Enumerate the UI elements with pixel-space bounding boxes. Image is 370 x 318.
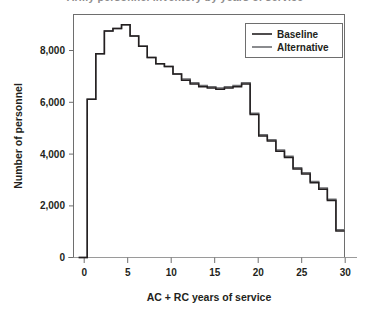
series-line-alternative	[79, 25, 345, 258]
y-tickmarks	[69, 51, 74, 258]
chart-legend: Baseline Alternative	[246, 24, 343, 58]
y-tick-label: 8,000	[40, 45, 65, 56]
x-tick-label: 15	[209, 267, 221, 278]
x-tickmarks	[84, 258, 345, 264]
x-tick-labels: 0 5 10 15 20 25 30	[81, 267, 351, 278]
y-axis-title: Number of personnel	[12, 83, 24, 189]
step-chart-plot: 8,000 6,000 4,000 2,000 0 0 5 10 15 20 2…	[0, 0, 370, 318]
chart-figure: Army personnel inventory by years of ser…	[0, 0, 370, 318]
x-axis-title: AC + RC years of service	[147, 291, 272, 303]
legend-label-alternative: Alternative	[277, 42, 329, 53]
y-tick-label: 4,000	[40, 149, 65, 160]
y-tick-label: 2,000	[40, 200, 65, 211]
x-tick-label: 25	[296, 267, 308, 278]
x-tick-label: 0	[81, 267, 87, 278]
y-tick-labels: 8,000 6,000 4,000 2,000 0	[40, 45, 65, 263]
y-tick-label: 6,000	[40, 97, 65, 108]
legend-label-baseline: Baseline	[277, 29, 319, 40]
x-tick-label: 30	[340, 267, 352, 278]
series-line-baseline	[79, 25, 345, 258]
x-tick-label: 20	[253, 267, 265, 278]
x-tick-label: 10	[166, 267, 178, 278]
x-tick-label: 5	[125, 267, 131, 278]
y-tick-label: 0	[59, 252, 65, 263]
